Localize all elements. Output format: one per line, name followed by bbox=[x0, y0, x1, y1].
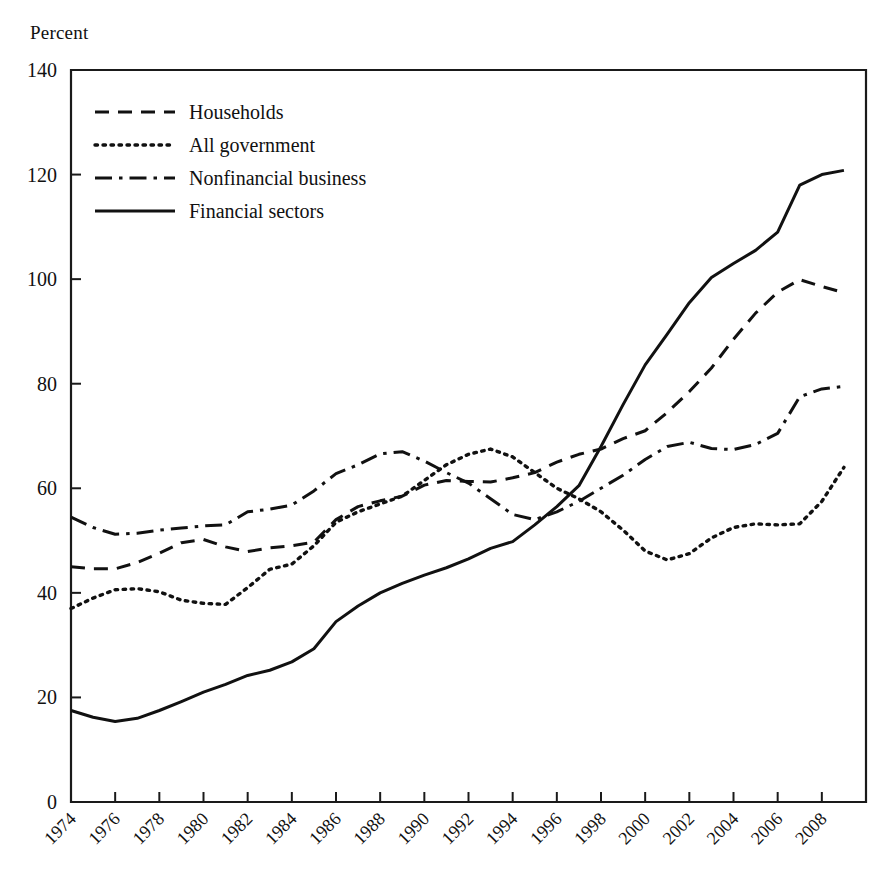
y-tick-label: 140 bbox=[27, 59, 57, 81]
x-tick-label: 1986 bbox=[305, 809, 345, 849]
x-tick-label: 2004 bbox=[703, 809, 743, 849]
y-tick-label: 80 bbox=[37, 373, 57, 395]
y-tick-label: 20 bbox=[37, 686, 57, 708]
x-tick-label: 1992 bbox=[438, 809, 478, 849]
x-tick-label: 2000 bbox=[614, 809, 654, 849]
series-line-households bbox=[71, 280, 844, 569]
series-line-nonfinancial-business bbox=[71, 386, 844, 534]
x-tick-label: 1988 bbox=[349, 809, 389, 849]
x-tick-label: 2002 bbox=[659, 809, 699, 849]
x-tick-label: 1974 bbox=[40, 809, 80, 849]
y-tick-label: 120 bbox=[27, 164, 57, 186]
x-tick-label: 1984 bbox=[261, 809, 301, 849]
chart-container: Percent 02040608010012014019741976197819… bbox=[0, 0, 894, 885]
legend-label-nonfinancial-business: Nonfinancial business bbox=[189, 167, 366, 189]
y-tick-label: 40 bbox=[37, 582, 57, 604]
y-tick-label: 0 bbox=[47, 791, 57, 813]
line-chart-plot: 0204060801001201401974197619781980198219… bbox=[0, 0, 894, 885]
x-tick-label: 1980 bbox=[173, 809, 213, 849]
y-tick-label: 60 bbox=[37, 477, 57, 499]
x-tick-label: 1996 bbox=[526, 809, 566, 849]
y-tick-label: 100 bbox=[27, 268, 57, 290]
x-tick-label: 1990 bbox=[394, 809, 434, 849]
x-tick-label: 2006 bbox=[747, 809, 787, 849]
x-tick-label: 2008 bbox=[791, 809, 831, 849]
x-tick-label: 1982 bbox=[217, 809, 257, 849]
x-tick-label: 1978 bbox=[129, 809, 169, 849]
series-line-financial-sectors bbox=[71, 170, 844, 721]
x-tick-label: 1994 bbox=[482, 809, 522, 849]
x-tick-label: 1976 bbox=[84, 809, 124, 849]
legend-label-financial-sectors: Financial sectors bbox=[189, 200, 324, 222]
x-tick-label: 1998 bbox=[570, 809, 610, 849]
legend-label-all-government: All government bbox=[189, 134, 316, 157]
legend-label-households: Households bbox=[189, 101, 284, 123]
